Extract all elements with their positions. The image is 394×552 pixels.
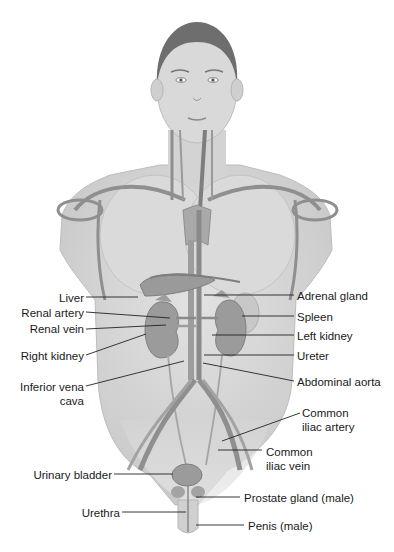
label-right-kidney: Right kidney [21,349,84,363]
label-renal-vein: Renal vein [30,322,84,336]
label-line-1: Common [302,406,354,420]
label-line-2: iliac artery [302,420,354,434]
label-prostate-gland: Prostate gland (male) [244,491,354,505]
label-common-iliac-artery: Common iliac artery [302,406,354,434]
label-left-kidney: Left kidney [297,329,353,343]
label-urinary-bladder: Urinary bladder [33,468,112,482]
label-liver: Liver [59,291,84,305]
bladder [172,464,202,486]
label-renal-artery: Renal artery [21,306,84,320]
label-abdominal-aorta: Abdominal aorta [297,375,381,389]
right-kidney [145,302,179,358]
label-line-1: Common [266,445,313,459]
label-spleen: Spleen [297,310,333,324]
label-line-2: iliac vein [266,459,313,473]
label-line-1: Inferior vena [20,380,84,394]
label-inferior-vena-cava: Inferior vena cava [20,380,84,408]
label-urethra: Urethra [82,506,120,520]
label-adrenal-gland: Adrenal gland [297,289,368,303]
label-line-2: cava [20,394,84,408]
anatomy-figure: Liver Renal artery Renal vein Right kidn… [0,0,394,552]
left-kidney [215,300,246,356]
label-penis: Penis (male) [248,519,313,533]
label-ureter: Ureter [297,349,329,363]
label-common-iliac-vein: Common iliac vein [266,445,313,473]
